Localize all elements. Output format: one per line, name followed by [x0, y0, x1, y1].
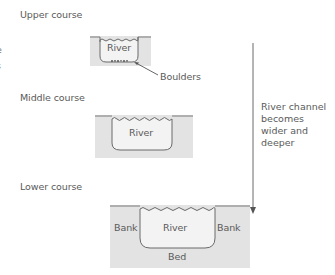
stage-title-lower: Lower course [20, 181, 82, 192]
bank-label-left: Bank [114, 222, 137, 233]
river-label-lower: River [163, 222, 187, 233]
trend-note: River channel becomes wider and deeper [261, 101, 331, 149]
river-label-middle: River [129, 127, 153, 138]
river-label-upper: River [107, 42, 131, 53]
bank-label-right: Bank [217, 222, 240, 233]
downstream-trend-arrow-icon [250, 43, 256, 214]
stage-title-upper: Upper course [20, 9, 82, 20]
stage-title-middle: Middle course [20, 92, 85, 103]
boulders-label: Boulders [160, 71, 201, 82]
bed-label: Bed [168, 251, 186, 262]
